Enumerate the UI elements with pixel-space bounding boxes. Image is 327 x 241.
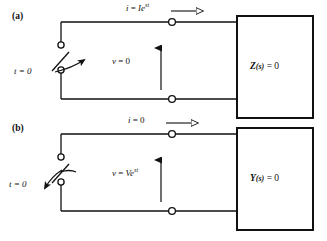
circuit-figure: (a) i = Iest v = 0 t = 0 Z(s) = 0 (b) i …	[0, 0, 327, 241]
current-equals-b: =	[133, 115, 138, 125]
panel-label-b: (b)	[12, 123, 24, 133]
switch-terminal-upper-b	[58, 154, 64, 160]
switch-time-label-a: t = 0	[14, 66, 32, 76]
circuit-schematic-svg	[0, 0, 327, 241]
current-equals-a: =	[131, 3, 136, 13]
voltage-equals-b: =	[118, 168, 123, 178]
current-label-a: i = Iest	[126, 3, 149, 13]
panel-label-a: (a)	[12, 11, 23, 21]
admittance-relation-b: = 0	[267, 173, 279, 183]
impedance-relation-a: = 0	[267, 61, 279, 71]
voltage-value-a: 0	[126, 56, 131, 66]
current-var-a: i	[126, 3, 129, 13]
switch-time-text-b: t = 0	[9, 179, 27, 189]
voltage-label-a: v = 0	[112, 56, 130, 66]
terminal-node-bottom-a	[169, 96, 176, 103]
switch-time-text-a: t = 0	[14, 66, 32, 76]
voltage-var-b: v	[112, 168, 116, 178]
switch-blade-arm-b	[60, 171, 76, 173]
impedance-label-a: Z(s) = 0	[250, 61, 279, 71]
voltage-exponent-b: st	[134, 167, 138, 173]
switch-terminal-upper-a	[58, 42, 64, 48]
terminal-node-top-b	[169, 131, 176, 138]
admittance-label-b: Y(s) = 0	[250, 173, 279, 183]
voltage-label-b: v = Vest	[112, 168, 138, 178]
voltage-equals-a: =	[118, 56, 123, 66]
current-label-b: i = 0	[128, 115, 145, 125]
terminal-node-top-a	[169, 19, 176, 26]
current-value-b: 0	[140, 115, 145, 125]
switch-terminal-lower-b	[58, 179, 64, 185]
admittance-argument-b: (s)	[256, 174, 264, 183]
impedance-argument-a: (s)	[256, 62, 264, 71]
voltage-var-a: v	[112, 56, 116, 66]
voltage-value-b: Ve	[126, 168, 135, 178]
terminal-node-bottom-b	[169, 208, 176, 215]
switch-time-label-b: t = 0	[9, 179, 27, 189]
current-var-b: i	[128, 115, 131, 125]
current-exponent-a: st	[145, 2, 149, 8]
